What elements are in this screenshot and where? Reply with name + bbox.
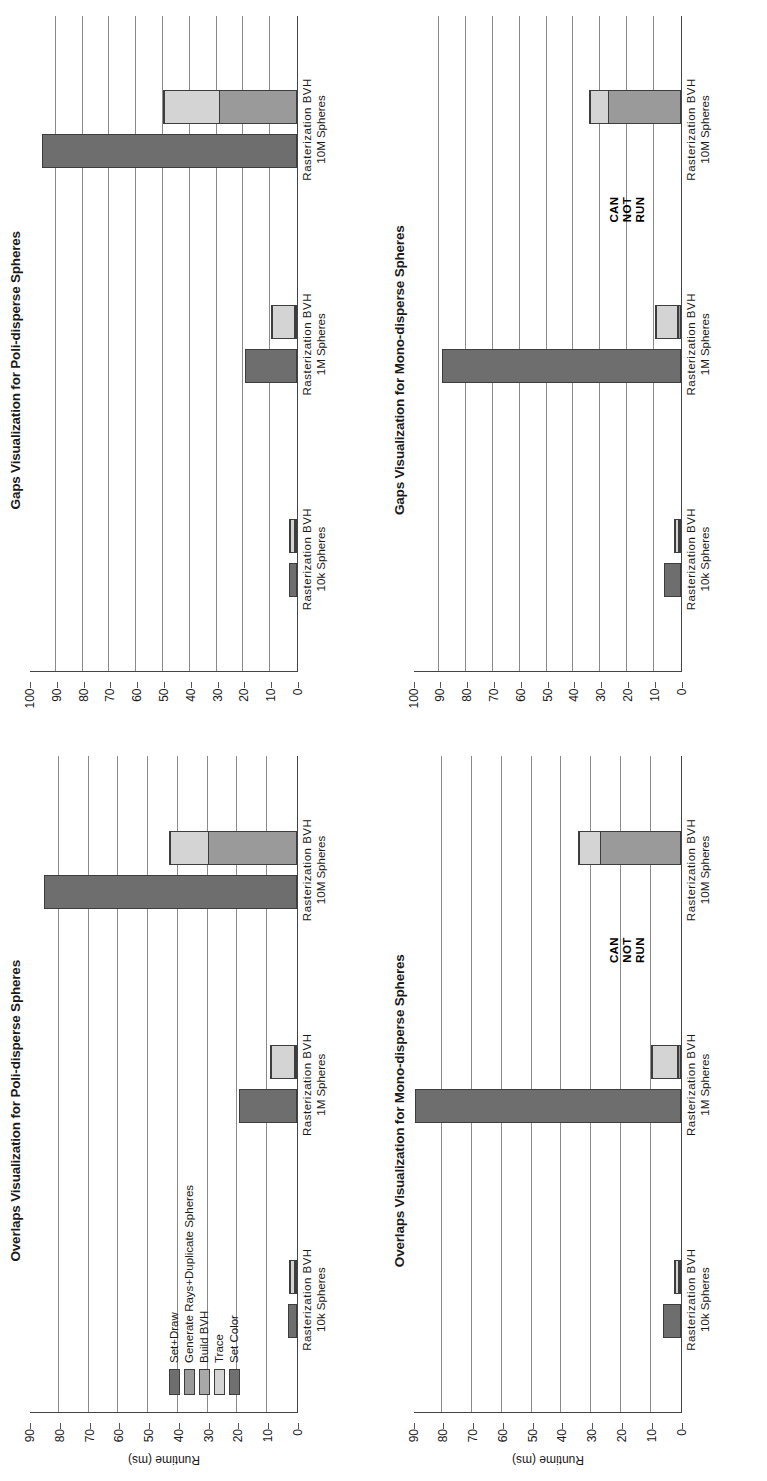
bar-segment-set-draw[interactable] bbox=[42, 134, 297, 168]
y-tick-mark bbox=[494, 683, 495, 689]
bar-rasterization-1m-spheres[interactable] bbox=[246, 349, 297, 383]
bar-segment-trace[interactable] bbox=[164, 90, 220, 124]
bar-segment-generate-rays-duplicate-spheres[interactable] bbox=[295, 305, 297, 339]
legend-item-build-bvh[interactable]: Build BVH bbox=[198, 1185, 210, 1395]
bar-bvh-10m-spheres[interactable] bbox=[170, 831, 297, 865]
bar-segment-generate-rays-duplicate-spheres[interactable] bbox=[208, 831, 297, 865]
x-method-labels: Rasterization BVH bbox=[684, 763, 698, 978]
y-tick-label: 100 bbox=[24, 689, 36, 729]
y-tick-mark bbox=[548, 683, 549, 689]
bar-segment-generate-rays-duplicate-spheres[interactable] bbox=[679, 519, 681, 553]
bar-bvh-10m-spheres[interactable] bbox=[164, 90, 297, 124]
bar-segment-set-draw[interactable] bbox=[664, 563, 680, 597]
bar-bvh-10k-spheres[interactable] bbox=[290, 1260, 297, 1294]
y-tick-label: 0 bbox=[676, 689, 688, 729]
bar-rasterization-1m-spheres[interactable] bbox=[443, 349, 681, 383]
y-tick-mark bbox=[473, 1423, 474, 1429]
bar-bvh-10m-spheres[interactable] bbox=[579, 831, 681, 865]
x-category-10m-spheres: Rasterization BVH10M Spheres bbox=[684, 763, 716, 978]
legend-item-set-color[interactable]: Set Color bbox=[228, 1185, 240, 1395]
y-tick-label: 90 bbox=[24, 1429, 36, 1469]
bar-segment-set-draw[interactable] bbox=[442, 349, 681, 383]
bar-segment-generate-rays-duplicate-spheres[interactable] bbox=[608, 90, 680, 124]
bar-rasterization-10k-spheres[interactable] bbox=[289, 1304, 297, 1338]
x-axis-category-labels: Rasterization BVH10k SpheresRasterizatio… bbox=[682, 757, 716, 1414]
bar-rasterization-1m-spheres[interactable] bbox=[416, 1089, 680, 1123]
bar-bvh-10k-spheres[interactable] bbox=[675, 1260, 681, 1294]
bar-group-10k-spheres bbox=[414, 451, 681, 666]
legend-item-trace[interactable]: Trace bbox=[213, 1185, 225, 1395]
y-tick-label: 40 bbox=[185, 689, 197, 729]
bar-segment-set-draw[interactable] bbox=[288, 1304, 297, 1338]
bar-group-10m-spheres: CANNOTRUN bbox=[414, 22, 681, 237]
bar-segment-trace[interactable] bbox=[272, 305, 295, 339]
chart-panel-gaps-poli: Gaps Visualization for Poli-disperse Sph… bbox=[0, 0, 384, 741]
bar-segment-generate-rays-duplicate-spheres[interactable] bbox=[679, 1260, 681, 1294]
bar-segment-trace[interactable] bbox=[652, 1045, 677, 1079]
y-tick-mark bbox=[60, 1423, 61, 1429]
bar-group-1m-spheres bbox=[414, 977, 681, 1192]
y-tick-label: 90 bbox=[51, 689, 63, 729]
legend-label: Build BVH bbox=[198, 1311, 210, 1363]
bar-container: CANNOTRUN bbox=[414, 16, 681, 672]
bar-bvh-1m-spheres[interactable] bbox=[271, 1045, 297, 1079]
x-category-label: 10k Spheres bbox=[314, 1192, 328, 1407]
bar-rasterization-10k-spheres[interactable] bbox=[665, 563, 680, 597]
bar-bvh-10k-spheres[interactable] bbox=[675, 519, 680, 553]
bar-rasterization-10m-spheres[interactable] bbox=[43, 134, 297, 168]
y-tick-mark bbox=[521, 683, 522, 689]
bar-segment-generate-rays-duplicate-spheres[interactable] bbox=[678, 305, 681, 339]
legend-item-generate-rays-duplicate-spheres[interactable]: Generate Rays+Duplicate Spheres bbox=[183, 1185, 195, 1395]
bar-group-10m-spheres bbox=[30, 763, 297, 978]
bar-segment-trace[interactable] bbox=[656, 305, 677, 339]
bar-rasterization-10m-spheres[interactable] bbox=[45, 875, 297, 909]
bar-segment-generate-rays-duplicate-spheres[interactable] bbox=[295, 1260, 297, 1294]
x-category-label: 10M Spheres bbox=[314, 763, 328, 978]
bar-rasterization-10k-spheres[interactable] bbox=[290, 563, 297, 597]
bar-segment-set-draw[interactable] bbox=[239, 1089, 297, 1123]
y-tick-mark bbox=[622, 1423, 623, 1429]
y-tick-mark bbox=[238, 1423, 239, 1429]
bar-bvh-10m-spheres[interactable] bbox=[590, 90, 680, 124]
bar-segment-generate-rays-duplicate-spheres[interactable] bbox=[678, 1045, 681, 1079]
x-method-labels: Rasterization BVH bbox=[300, 452, 314, 667]
bar-segment-trace[interactable] bbox=[579, 831, 601, 865]
bar-segment-generate-rays-duplicate-spheres[interactable] bbox=[600, 831, 680, 865]
y-tick-mark bbox=[164, 683, 165, 689]
bar-segment-generate-rays-duplicate-spheres[interactable] bbox=[295, 519, 297, 553]
x-axis-category-labels: Rasterization BVH10k SpheresRasterizatio… bbox=[298, 757, 332, 1414]
y-tick-label: 30 bbox=[212, 689, 224, 729]
bar-segment-generate-rays-duplicate-spheres[interactable] bbox=[219, 90, 297, 124]
bar-segment-set-draw[interactable] bbox=[289, 563, 297, 597]
x-method-labels: Rasterization BVH bbox=[300, 22, 314, 237]
bar-segment-generate-rays-duplicate-spheres[interactable] bbox=[295, 1045, 297, 1079]
y-tick-label: 60 bbox=[113, 1429, 125, 1469]
bar-rasterization-1m-spheres[interactable] bbox=[240, 1089, 297, 1123]
bar-segment-set-draw[interactable] bbox=[44, 875, 297, 909]
x-category-1m-spheres: Rasterization BVH1M Spheres bbox=[300, 237, 332, 452]
bar-segment-trace[interactable] bbox=[170, 831, 209, 865]
bar-segment-set-draw[interactable] bbox=[245, 349, 297, 383]
x-category-label: 1M Spheres bbox=[314, 237, 328, 452]
x-category-label: 1M Spheres bbox=[314, 977, 328, 1192]
y-tick-label: 60 bbox=[497, 1429, 509, 1469]
bar-group-10k-spheres bbox=[30, 451, 297, 666]
bar-bvh-1m-spheres[interactable] bbox=[652, 1045, 680, 1079]
y-tick-label: 10 bbox=[262, 1429, 274, 1469]
bar-segment-set-draw[interactable] bbox=[663, 1304, 681, 1338]
y-tick-mark bbox=[271, 683, 272, 689]
bar-group-10k-spheres bbox=[414, 1192, 681, 1407]
bar-bvh-1m-spheres[interactable] bbox=[656, 305, 680, 339]
legend-item-set-draw[interactable]: Set+Draw bbox=[168, 1185, 180, 1395]
bar-segment-set-draw[interactable] bbox=[415, 1089, 680, 1123]
bar-segment-trace[interactable] bbox=[271, 1045, 295, 1079]
bar-rasterization-10k-spheres[interactable] bbox=[664, 1304, 681, 1338]
bar-segment-trace[interactable] bbox=[590, 90, 609, 124]
y-tick-mark bbox=[592, 1423, 593, 1429]
y-tick-label: 50 bbox=[143, 1429, 155, 1469]
legend-label: Trace bbox=[213, 1334, 225, 1363]
bar-bvh-1m-spheres[interactable] bbox=[272, 305, 297, 339]
x-method-labels: Rasterization BVH bbox=[684, 22, 698, 237]
bar-bvh-10k-spheres[interactable] bbox=[290, 519, 297, 553]
y-axis-ticks: 0102030405060708090100 bbox=[30, 689, 298, 729]
